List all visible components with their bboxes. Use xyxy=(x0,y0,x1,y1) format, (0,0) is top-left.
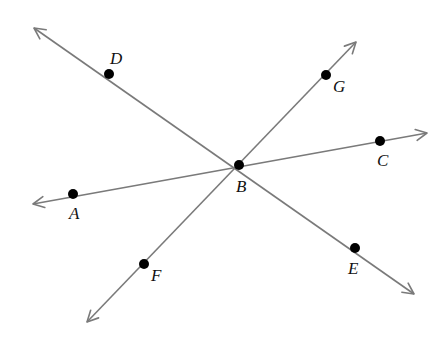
point-g xyxy=(321,70,331,80)
label-d: D xyxy=(109,49,123,68)
geometry-diagram: DGCBAFE xyxy=(0,0,447,343)
label-c: C xyxy=(377,151,389,170)
lines-layer xyxy=(33,28,427,322)
label-b: B xyxy=(236,177,247,196)
point-d xyxy=(104,69,114,79)
point-e xyxy=(350,243,360,253)
point-f xyxy=(139,259,149,269)
point-c xyxy=(375,136,385,146)
label-e: E xyxy=(347,259,359,278)
point-b xyxy=(234,160,244,170)
label-g: G xyxy=(333,77,345,96)
label-a: A xyxy=(68,204,80,223)
line-FG xyxy=(87,42,356,322)
label-f: F xyxy=(150,266,162,285)
line-DE xyxy=(34,28,414,294)
labels-layer: DGCBAFE xyxy=(68,49,389,285)
point-a xyxy=(68,189,78,199)
line-AC xyxy=(33,133,427,204)
